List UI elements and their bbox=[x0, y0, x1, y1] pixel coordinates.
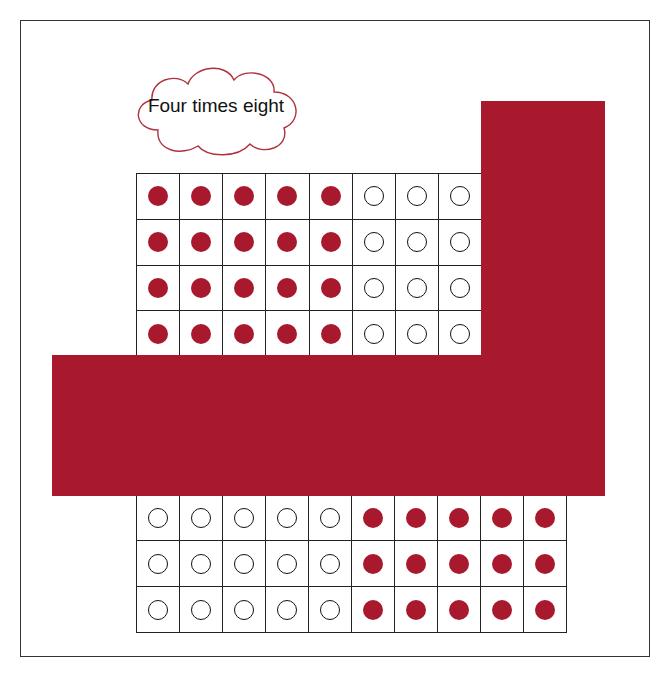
filled-circle-icon bbox=[234, 186, 254, 206]
filled-circle-icon bbox=[321, 278, 341, 298]
filled-circle-icon bbox=[277, 278, 297, 298]
grid-cell bbox=[395, 541, 438, 587]
vertical-mask bbox=[481, 101, 605, 361]
filled-circle-icon bbox=[234, 324, 254, 344]
grid-cell bbox=[438, 219, 481, 265]
empty-circle-icon bbox=[407, 186, 427, 206]
filled-circle-icon bbox=[406, 508, 426, 528]
grid-cell bbox=[395, 219, 438, 265]
grid-row bbox=[137, 541, 567, 587]
grid-cell bbox=[395, 174, 438, 220]
empty-circle-icon bbox=[320, 600, 340, 620]
filled-circle-icon bbox=[321, 232, 341, 252]
grid-cell bbox=[438, 541, 481, 587]
filled-circle-icon bbox=[406, 600, 426, 620]
filled-circle-icon bbox=[492, 508, 512, 528]
grid-cell bbox=[438, 265, 481, 311]
filled-circle-icon bbox=[449, 508, 469, 528]
filled-circle-icon bbox=[148, 186, 168, 206]
empty-circle-icon bbox=[450, 324, 470, 344]
grid-cell bbox=[180, 541, 223, 587]
empty-circle-icon bbox=[234, 600, 254, 620]
filled-circle-icon bbox=[363, 600, 383, 620]
grid-cell bbox=[266, 587, 309, 633]
empty-circle-icon bbox=[320, 554, 340, 574]
grid-cell bbox=[309, 265, 352, 311]
grid-cell bbox=[352, 311, 395, 357]
empty-circle-icon bbox=[148, 600, 168, 620]
filled-circle-icon bbox=[191, 324, 211, 344]
grid-cell bbox=[309, 219, 352, 265]
grid-cell bbox=[137, 311, 180, 357]
empty-circle-icon bbox=[364, 278, 384, 298]
grid-cell bbox=[137, 495, 180, 541]
grid-row bbox=[137, 311, 482, 357]
grid-cell bbox=[266, 541, 309, 587]
grid-row bbox=[137, 174, 482, 220]
grid-cell bbox=[266, 219, 309, 265]
empty-circle-icon bbox=[450, 278, 470, 298]
grid-cell bbox=[137, 541, 180, 587]
filled-circle-icon bbox=[449, 600, 469, 620]
grid-cell bbox=[309, 495, 352, 541]
filled-circle-icon bbox=[277, 324, 297, 344]
grid-cell bbox=[266, 311, 309, 357]
grid-cell bbox=[524, 541, 567, 587]
grid-cell bbox=[352, 495, 395, 541]
horizontal-mask bbox=[52, 355, 605, 496]
grid-cell bbox=[309, 587, 352, 633]
empty-circle-icon bbox=[407, 278, 427, 298]
empty-circle-icon bbox=[364, 232, 384, 252]
grid-cell bbox=[438, 587, 481, 633]
grid-cell bbox=[352, 219, 395, 265]
grid-cell bbox=[438, 311, 481, 357]
filled-circle-icon bbox=[449, 554, 469, 574]
empty-circle-icon bbox=[191, 554, 211, 574]
grid-cell bbox=[223, 311, 266, 357]
empty-circle-icon bbox=[320, 508, 340, 528]
filled-circle-icon bbox=[277, 186, 297, 206]
empty-circle-icon bbox=[407, 324, 427, 344]
grid-row bbox=[137, 495, 567, 541]
filled-circle-icon bbox=[363, 508, 383, 528]
empty-circle-icon bbox=[234, 508, 254, 528]
upper-dot-grid bbox=[136, 173, 482, 357]
grid-row bbox=[137, 587, 567, 633]
filled-circle-icon bbox=[492, 600, 512, 620]
grid-cell bbox=[180, 495, 223, 541]
filled-circle-icon bbox=[321, 324, 341, 344]
empty-circle-icon bbox=[277, 508, 297, 528]
filled-circle-icon bbox=[148, 232, 168, 252]
grid-cell bbox=[266, 265, 309, 311]
grid-cell bbox=[309, 174, 352, 220]
grid-cell bbox=[223, 541, 266, 587]
empty-circle-icon bbox=[191, 600, 211, 620]
empty-circle-icon bbox=[450, 232, 470, 252]
grid-cell bbox=[352, 541, 395, 587]
grid-cell bbox=[524, 587, 567, 633]
filled-circle-icon bbox=[277, 232, 297, 252]
empty-circle-icon bbox=[234, 554, 254, 574]
grid-cell bbox=[266, 174, 309, 220]
filled-circle-icon bbox=[148, 278, 168, 298]
filled-circle-icon bbox=[148, 324, 168, 344]
filled-circle-icon bbox=[234, 278, 254, 298]
grid-cell bbox=[309, 541, 352, 587]
grid-cell bbox=[266, 495, 309, 541]
grid-cell bbox=[309, 311, 352, 357]
filled-circle-icon bbox=[535, 508, 555, 528]
grid-cell bbox=[137, 174, 180, 220]
grid-cell bbox=[223, 587, 266, 633]
filled-circle-icon bbox=[492, 554, 512, 574]
empty-circle-icon bbox=[364, 186, 384, 206]
empty-circle-icon bbox=[277, 600, 297, 620]
filled-circle-icon bbox=[234, 232, 254, 252]
grid-cell bbox=[180, 311, 223, 357]
filled-circle-icon bbox=[406, 554, 426, 574]
grid-cell bbox=[395, 587, 438, 633]
filled-circle-icon bbox=[191, 278, 211, 298]
empty-circle-icon bbox=[277, 554, 297, 574]
grid-cell bbox=[137, 587, 180, 633]
grid-cell bbox=[180, 265, 223, 311]
grid-cell bbox=[395, 265, 438, 311]
